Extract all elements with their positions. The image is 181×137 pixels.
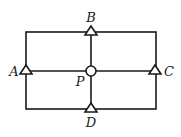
label-c: C: [164, 64, 174, 79]
node-b-triangle-icon: [85, 26, 97, 35]
label-a: A: [8, 64, 18, 79]
diagram-canvas: B A P C D: [0, 0, 181, 137]
label-b: B: [85, 10, 96, 25]
node-p-circle-icon: [86, 66, 96, 76]
node-a-triangle-icon: [20, 65, 32, 74]
label-d: D: [85, 115, 97, 130]
label-p: P: [75, 74, 85, 89]
node-d-triangle-icon: [85, 103, 97, 112]
node-c-triangle-icon: [149, 65, 161, 74]
network-diagram: B A P C D: [0, 0, 181, 137]
